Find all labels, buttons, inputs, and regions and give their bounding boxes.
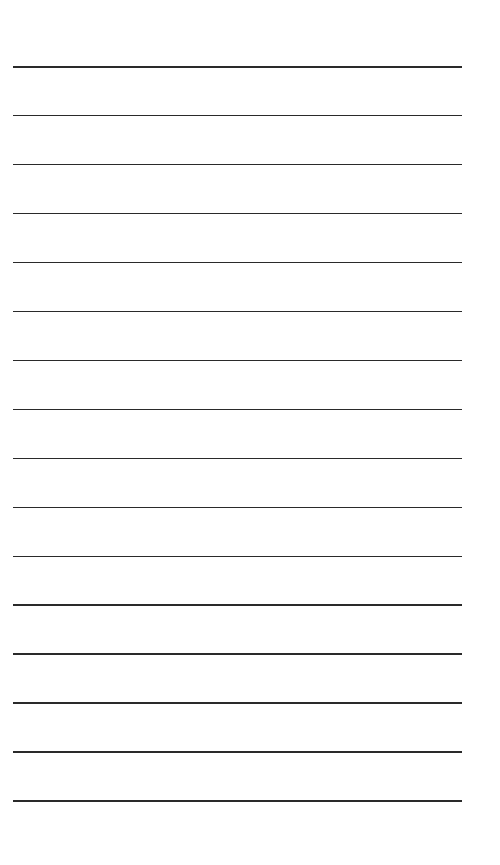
ruled-line: [13, 507, 462, 509]
ruled-line: [13, 458, 462, 460]
ruled-line: [13, 751, 462, 753]
ruled-line: [13, 213, 462, 215]
ruled-line: [13, 653, 462, 655]
ruled-line: [13, 311, 462, 313]
ruled-line: [13, 800, 462, 802]
ruled-line: [13, 360, 462, 362]
ruled-line: [13, 262, 462, 264]
ruled-line: [13, 164, 462, 166]
ruled-line: [13, 604, 462, 606]
ruled-line: [13, 409, 462, 411]
ruled-line: [13, 702, 462, 704]
ruled-line: [13, 556, 462, 558]
ruled-line: [13, 66, 462, 68]
ruled-line: [13, 115, 462, 117]
